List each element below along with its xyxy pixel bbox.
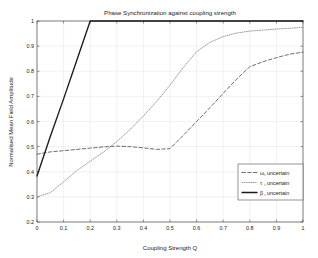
- y-tick-label: 0.5: [27, 144, 35, 150]
- y-tick-label: 0.6: [27, 119, 35, 125]
- x-tick-label: 0.3: [113, 225, 121, 231]
- y-tick-label: 0.4: [27, 169, 35, 175]
- x-tick-label: 0.9: [273, 225, 281, 231]
- legend-label: uncertain: [267, 190, 289, 196]
- y-tick-label: 1: [31, 18, 34, 24]
- y-tick-label: 0.3: [27, 194, 35, 200]
- y-axis-title: Normalised Mean Field Amplitude: [8, 76, 14, 166]
- x-tick-label: 0.4: [140, 225, 148, 231]
- x-tick-label: 1: [302, 225, 305, 231]
- legend-label: uncertain: [267, 170, 289, 176]
- phase-synchronization-chart: 00.10.20.30.40.50.60.70.80.910.20.30.40.…: [0, 0, 318, 258]
- figure-background: [0, 0, 318, 258]
- x-tick-label: 0.7: [219, 225, 227, 231]
- legend-label: uncertain: [267, 180, 289, 186]
- y-tick-label: 0.2: [27, 219, 35, 225]
- legend-box[interactable]: ωi uncertainτi uncertainβi uncertain: [238, 164, 303, 200]
- legend-symbol: β: [260, 190, 263, 196]
- y-tick-label: 0.7: [27, 93, 35, 99]
- x-tick-label: 0.8: [246, 225, 254, 231]
- y-tick-label: 0.9: [27, 43, 35, 49]
- x-axis-title: Coupling Strength Q: [143, 245, 198, 251]
- x-tick-label: 0.1: [60, 225, 68, 231]
- chart-title: Phase Synchronization against coupling s…: [104, 9, 236, 16]
- x-tick-label: 0.5: [166, 225, 174, 231]
- figure-container: 00.10.20.30.40.50.60.70.80.910.20.30.40.…: [0, 0, 318, 258]
- x-tick-label: 0.6: [193, 225, 201, 231]
- y-tick-label: 0.8: [27, 68, 35, 74]
- x-tick-label: 0: [36, 225, 39, 231]
- x-tick-label: 0.2: [86, 225, 94, 231]
